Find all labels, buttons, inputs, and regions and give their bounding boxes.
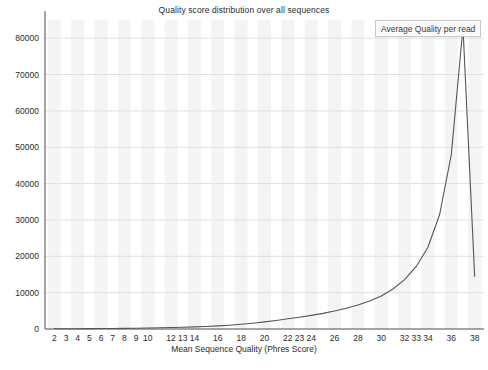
x-tick-label: 6 — [99, 333, 104, 343]
x-tick-label: 34 — [423, 333, 432, 343]
x-tick-label: 18 — [236, 333, 245, 343]
y-tick-label: 80000 — [0, 33, 39, 43]
y-tick-label: 70000 — [0, 70, 39, 80]
x-tick-label: 13 — [178, 333, 187, 343]
x-tick-label: 7 — [110, 333, 115, 343]
x-tick-label: 30 — [377, 333, 386, 343]
y-tick-label: 0 — [0, 324, 39, 334]
x-tick-label: 9 — [134, 333, 139, 343]
plot-area — [0, 0, 488, 370]
x-tick-label: 16 — [213, 333, 222, 343]
x-tick-label: 22 — [283, 333, 292, 343]
y-tick-label: 10000 — [0, 288, 39, 298]
x-tick-label: 36 — [447, 333, 456, 343]
x-tick-label: 23 — [295, 333, 304, 343]
x-tick-label: 33 — [412, 333, 421, 343]
quality-score-chart: Quality score distribution over all sequ… — [0, 0, 488, 370]
x-tick-label: 8 — [122, 333, 127, 343]
y-tick-label: 30000 — [0, 215, 39, 225]
x-tick-label: 5 — [87, 333, 92, 343]
x-tick-label: 38 — [470, 333, 479, 343]
x-axis-title: Mean Sequence Quality (Phres Score) — [0, 344, 488, 354]
x-tick-label: 3 — [64, 333, 69, 343]
x-tick-label: 2 — [52, 333, 57, 343]
x-tick-label: 14 — [190, 333, 199, 343]
x-tick-label: 28 — [353, 333, 362, 343]
x-tick-label: 4 — [75, 333, 80, 343]
x-tick-label: 10 — [143, 333, 152, 343]
vertical-bands — [48, 20, 481, 329]
legend[interactable]: Average Quality per read — [375, 20, 481, 37]
y-tick-label: 60000 — [0, 106, 39, 116]
y-tick-label: 20000 — [0, 251, 39, 261]
x-tick-label: 12 — [166, 333, 175, 343]
x-tick-label: 20 — [260, 333, 269, 343]
x-tick-label: 32 — [400, 333, 409, 343]
x-tick-label: 26 — [330, 333, 339, 343]
legend-label: Average Quality per read — [381, 24, 475, 34]
y-tick-label: 50000 — [0, 142, 39, 152]
y-tick-label: 40000 — [0, 179, 39, 189]
x-tick-label: 24 — [306, 333, 315, 343]
